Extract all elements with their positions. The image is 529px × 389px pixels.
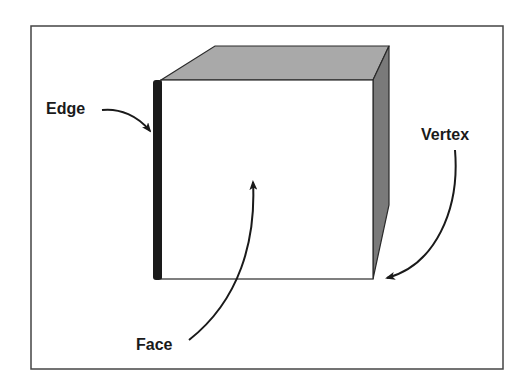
edge-label: Edge — [46, 101, 85, 117]
cube-front-face — [161, 80, 373, 279]
diagram-canvas: Edge Vertex Face — [0, 0, 529, 389]
face-label: Face — [136, 337, 172, 353]
vertex-label: Vertex — [421, 127, 469, 143]
cube-diagram — [0, 0, 529, 389]
cube-edge-highlight — [153, 80, 162, 280]
